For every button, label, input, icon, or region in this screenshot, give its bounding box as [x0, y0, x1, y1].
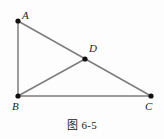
- geometry-figure: A B C D 图 6-5: [0, 0, 164, 139]
- vertex-label-b: B: [12, 101, 19, 112]
- vertex-point-a: [15, 18, 20, 23]
- vertex-point-c: [148, 93, 153, 98]
- vertex-label-c: C: [145, 101, 152, 112]
- vertex-label-d: D: [89, 43, 97, 54]
- vertex-point-d: [82, 56, 87, 61]
- vertex-label-a: A: [22, 10, 29, 21]
- figure-caption: 图 6-5: [0, 118, 164, 132]
- vertex-point-b: [15, 93, 20, 98]
- segment-bd: [18, 59, 85, 96]
